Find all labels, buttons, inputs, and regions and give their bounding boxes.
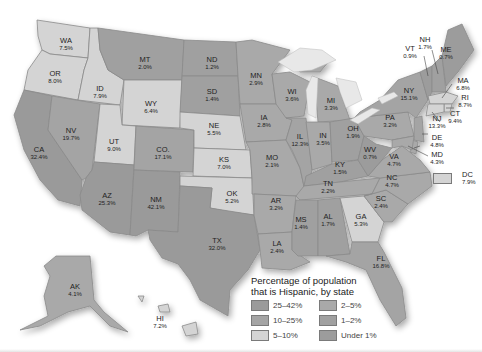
legend-swatch bbox=[319, 315, 337, 326]
label-WI: WI3.6% bbox=[285, 88, 299, 103]
label-OK: OK5.2% bbox=[225, 190, 239, 205]
label-WY: WY6.4% bbox=[144, 100, 158, 115]
dc-swatch bbox=[433, 173, 452, 184]
label-RI: RI8.7% bbox=[458, 94, 472, 109]
label-VT: VT0.9% bbox=[403, 45, 417, 60]
label-MI: MI3.3% bbox=[324, 97, 338, 112]
label-OR: OR8.0% bbox=[48, 70, 62, 85]
label-AL: AL1.7% bbox=[321, 213, 335, 228]
label-FL: FL16.8% bbox=[372, 255, 389, 270]
label-NJ: NJ13.3% bbox=[428, 115, 445, 130]
label-WV: WV0.7% bbox=[363, 146, 377, 161]
label-MN: MN2.9% bbox=[249, 72, 263, 87]
label-OH: OH1.9% bbox=[346, 125, 360, 140]
label-WA: WA7.5% bbox=[59, 37, 73, 52]
legend-swatch bbox=[251, 300, 269, 311]
state-MT bbox=[98, 28, 184, 80]
label-NE: NE5.5% bbox=[207, 122, 221, 137]
label-AK: AK4.1% bbox=[68, 283, 82, 298]
legend-title-line2: that is Hispanic, by state bbox=[251, 286, 401, 297]
label-AZ: AZ25.3% bbox=[98, 192, 115, 207]
legend-swatch bbox=[319, 300, 337, 311]
label-NM: NM42.1% bbox=[147, 196, 164, 211]
label-AR: AR3.2% bbox=[269, 197, 283, 212]
legend-item-5-10: 5–10% bbox=[251, 330, 319, 341]
label-DE: DE4.8% bbox=[430, 134, 444, 149]
label-CO: CO.17.1% bbox=[154, 146, 171, 161]
label-SC: SC2.4% bbox=[374, 195, 388, 210]
label-NH: NH1.7% bbox=[418, 36, 432, 51]
legend: Percentage of population that is Hispani… bbox=[251, 275, 401, 341]
label-VA: VA4.7% bbox=[387, 153, 401, 168]
label-CT: CT9.4% bbox=[448, 110, 462, 125]
label-LA: LA2.4% bbox=[270, 240, 284, 255]
state-HI bbox=[138, 296, 198, 336]
label-MO: MO2.1% bbox=[265, 154, 279, 169]
legend-title-line1: Percentage of population bbox=[251, 275, 401, 286]
label-HI: HI7.2% bbox=[153, 315, 167, 330]
legend-swatch bbox=[251, 330, 269, 341]
label-TX: TX32.0% bbox=[208, 237, 225, 252]
state-NJ bbox=[414, 116, 424, 142]
label-MD: MD4.3% bbox=[430, 151, 444, 166]
legend-item-under-1: Under 1% bbox=[319, 330, 389, 341]
legend-item-1-2: 1–2% bbox=[319, 315, 389, 326]
label-TN: TN2.2% bbox=[321, 180, 335, 195]
legend-item-10-25: 10–25% bbox=[251, 315, 319, 326]
label-PA: PA3.2% bbox=[383, 114, 397, 129]
label-ID: ID7.9% bbox=[93, 85, 107, 100]
label-NC: NC4.7% bbox=[385, 174, 399, 189]
label-SD: SD1.4% bbox=[205, 88, 219, 103]
label-MT: MT2.0% bbox=[138, 56, 152, 71]
label-IN: IN3.5% bbox=[316, 132, 330, 147]
label-GA: GA5.3% bbox=[354, 213, 368, 228]
legend-swatch bbox=[319, 330, 337, 341]
label-MA: MA6.8% bbox=[456, 77, 470, 92]
legend-swatch bbox=[251, 315, 269, 326]
label-KY: KY1.5% bbox=[333, 161, 347, 176]
label-ND: ND1.2% bbox=[205, 56, 219, 71]
label-MS: MS1.4% bbox=[294, 216, 308, 231]
label-NY: NY15.1% bbox=[400, 87, 417, 102]
legend-item-2-5: 2–5% bbox=[319, 300, 389, 311]
label-KS: KS7.0% bbox=[217, 156, 231, 171]
label-IA: IA2.8% bbox=[257, 114, 271, 129]
label-UT: UT9.0% bbox=[107, 138, 121, 153]
state-MA bbox=[428, 92, 458, 104]
label-IL: IL12.3% bbox=[291, 133, 308, 148]
label-ME: ME0.7% bbox=[439, 46, 453, 61]
label-CA: CA32.4% bbox=[30, 146, 47, 161]
legend-item-25-42: 25–42% bbox=[251, 300, 319, 311]
label-DC: DC7.9% bbox=[462, 171, 476, 186]
label-NV: NV19.7% bbox=[62, 127, 79, 142]
